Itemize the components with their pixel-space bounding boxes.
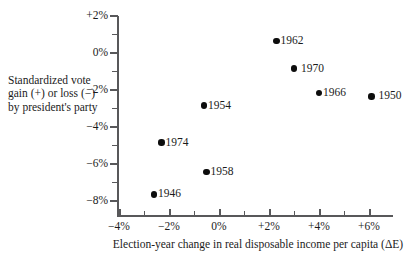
data-point-label: 1962: [281, 34, 304, 46]
data-point-marker: [291, 65, 297, 71]
x-axis-tick: [269, 209, 271, 216]
y-axis-title: Standardized vote gain (+) or loss (−) b…: [8, 74, 100, 114]
x-axis-tick: [119, 209, 121, 216]
x-axis-tick: [194, 211, 195, 217]
data-point-label: 1950: [379, 89, 402, 101]
y-axis-tick: [110, 15, 118, 17]
x-axis-tick: [144, 211, 145, 217]
y-axis-tick: [110, 126, 118, 128]
x-axis-tick: [169, 209, 171, 216]
data-point-marker: [151, 191, 157, 197]
data-point-label: 1946: [158, 187, 181, 199]
data-point-label: 1966: [323, 86, 346, 98]
x-axis-tick-label: +6%: [339, 220, 399, 232]
x-axis-tick: [294, 211, 295, 217]
x-axis-tick: [319, 209, 321, 216]
data-point-marker: [368, 93, 374, 99]
data-point-marker: [201, 102, 207, 108]
y-axis-tick-label: 0%: [62, 46, 108, 58]
y-axis-tick: [112, 182, 118, 183]
data-point-label: 1958: [211, 165, 234, 177]
data-point-marker: [316, 90, 322, 96]
data-point-marker: [158, 139, 164, 145]
y-axis-tick: [110, 89, 118, 91]
data-point-label: 1970: [301, 62, 324, 74]
x-axis-title: Election-year change in real disposable …: [108, 238, 408, 251]
x-axis-line: [117, 215, 393, 217]
x-axis-tick: [369, 209, 371, 216]
y-axis-line: [117, 16, 119, 217]
x-axis-tick: [244, 211, 245, 217]
y-axis-tick: [110, 200, 118, 202]
data-point-marker: [273, 38, 279, 44]
y-axis-tick: [110, 52, 118, 54]
data-point-marker: [203, 169, 209, 175]
y-axis-tick: [112, 71, 118, 72]
y-axis-tick: [112, 108, 118, 109]
y-axis-tick-label: −8%: [62, 194, 108, 206]
data-point-label: 1974: [166, 136, 189, 148]
scatter-plot-figure: −8%−6%−4%−2%0%+2%−4%−2%0%+2%+4%+6% 19621…: [0, 0, 414, 260]
y-axis-tick-label: −4%: [62, 120, 108, 132]
x-axis-tick: [219, 209, 221, 216]
y-axis-tick: [112, 145, 118, 146]
y-axis-tick-label: −6%: [62, 157, 108, 169]
y-axis-tick: [110, 163, 118, 165]
y-axis-tick: [112, 34, 118, 35]
y-axis-tick-label: +2%: [62, 9, 108, 21]
data-point-label: 1954: [208, 99, 231, 111]
x-axis-tick: [344, 211, 345, 217]
